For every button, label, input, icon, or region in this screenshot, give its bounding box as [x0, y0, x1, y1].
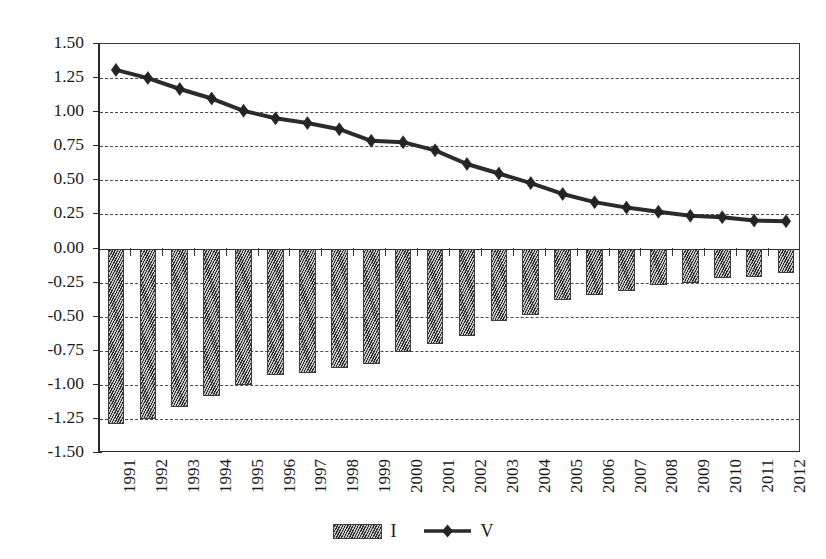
chart-legend: IV: [0, 522, 826, 540]
data-point-marker: [654, 205, 663, 218]
legend-entry: V: [423, 522, 494, 540]
y-tick-label: 0.75: [0, 137, 84, 155]
x-tick-mark: [481, 248, 482, 256]
data-point-marker: [558, 187, 567, 200]
y-tick-label: 0.50: [0, 171, 84, 189]
x-tick-label: 2009: [695, 459, 712, 493]
x-tick-label: 1995: [249, 459, 266, 493]
x-tick-label: 1993: [185, 459, 202, 493]
data-point-marker: [271, 112, 280, 125]
x-tick-mark: [736, 248, 737, 256]
data-point-marker: [526, 177, 535, 190]
x-tick-mark: [353, 248, 354, 256]
data-point-marker: [718, 211, 727, 224]
x-tick-mark: [226, 248, 227, 256]
data-point-marker: [398, 136, 407, 149]
y-tick-label: -0.50: [0, 307, 84, 325]
x-tick-label: 2000: [408, 459, 425, 493]
legend-bar-swatch-icon: [333, 524, 382, 539]
x-tick-label: 2001: [440, 459, 457, 493]
x-tick-label: 1991: [121, 459, 138, 493]
data-point-marker: [686, 209, 695, 222]
x-tick-label: 2012: [791, 459, 808, 493]
y-tick-label: -1.00: [0, 375, 84, 393]
x-tick-mark: [194, 248, 195, 256]
x-tick-mark: [577, 248, 578, 256]
y-tick-label: -1.50: [0, 443, 84, 461]
x-tick-label: 1998: [344, 459, 361, 493]
series-markers: [111, 63, 790, 227]
x-tick-mark: [162, 248, 163, 256]
data-point-marker: [239, 104, 248, 117]
y-tick-label: 1.25: [0, 68, 84, 86]
data-point-marker: [335, 123, 344, 136]
y-tick-label: -0.75: [0, 341, 84, 359]
x-tick-mark: [513, 248, 514, 256]
x-tick-label: 2007: [632, 459, 649, 493]
legend-label: I: [391, 522, 397, 540]
data-point-marker: [590, 196, 599, 209]
x-tick-mark: [545, 248, 546, 256]
x-tick-label: 1997: [312, 459, 329, 493]
x-tick-label: 1994: [217, 459, 234, 493]
y-tick-label: 0.25: [0, 205, 84, 223]
x-tick-label: 1992: [153, 459, 170, 493]
data-point-marker: [207, 92, 216, 105]
x-tick-mark: [768, 248, 769, 256]
series-line-path: [116, 70, 786, 221]
data-point-marker: [303, 117, 312, 130]
data-point-marker: [430, 144, 439, 157]
data-point-marker: [622, 201, 631, 214]
x-tick-mark: [385, 248, 386, 256]
data-point-marker: [111, 63, 120, 76]
y-tick-label: 0.00: [0, 239, 84, 257]
x-tick-label: 2008: [663, 459, 680, 493]
y-tick-label: -1.25: [0, 409, 84, 427]
x-tick-label: 2005: [568, 459, 585, 493]
y-tick-label: -0.25: [0, 273, 84, 291]
data-point-marker: [367, 134, 376, 147]
data-point-marker: [462, 157, 471, 170]
x-tick-mark: [609, 248, 610, 256]
x-tick-label: 2010: [727, 459, 744, 493]
data-point-marker: [143, 72, 152, 85]
x-tick-mark: [258, 248, 259, 256]
x-tick-mark: [417, 248, 418, 256]
legend-entry: I: [333, 522, 397, 540]
legend-label: V: [481, 522, 494, 540]
x-tick-mark: [449, 248, 450, 256]
combo-bar-line-chart: 1.501.251.000.750.500.250.00-0.25-0.50-0…: [0, 0, 826, 559]
x-tick-mark: [672, 248, 673, 256]
data-point-marker: [175, 82, 184, 95]
x-tick-mark: [640, 248, 641, 256]
x-tick-label: 2011: [759, 459, 776, 492]
x-tick-label: 2004: [536, 459, 553, 493]
x-tick-mark: [321, 248, 322, 256]
y-tick-label: 1.50: [0, 34, 84, 52]
x-tick-mark: [289, 248, 290, 256]
y-tick-mark: [93, 452, 102, 453]
x-tick-label: 1999: [376, 459, 393, 493]
data-point-marker: [494, 167, 503, 180]
x-tick-mark: [130, 248, 131, 256]
y-tick-label: 1.00: [0, 102, 84, 120]
x-tick-label: 2006: [600, 459, 617, 493]
legend-line-diamond-icon: [423, 524, 472, 538]
x-tick-label: 2002: [472, 459, 489, 493]
x-tick-mark: [704, 248, 705, 256]
x-tick-label: 1996: [281, 459, 298, 493]
data-point-marker: [749, 214, 758, 227]
data-point-marker: [781, 215, 790, 228]
x-tick-label: 2003: [504, 459, 521, 493]
